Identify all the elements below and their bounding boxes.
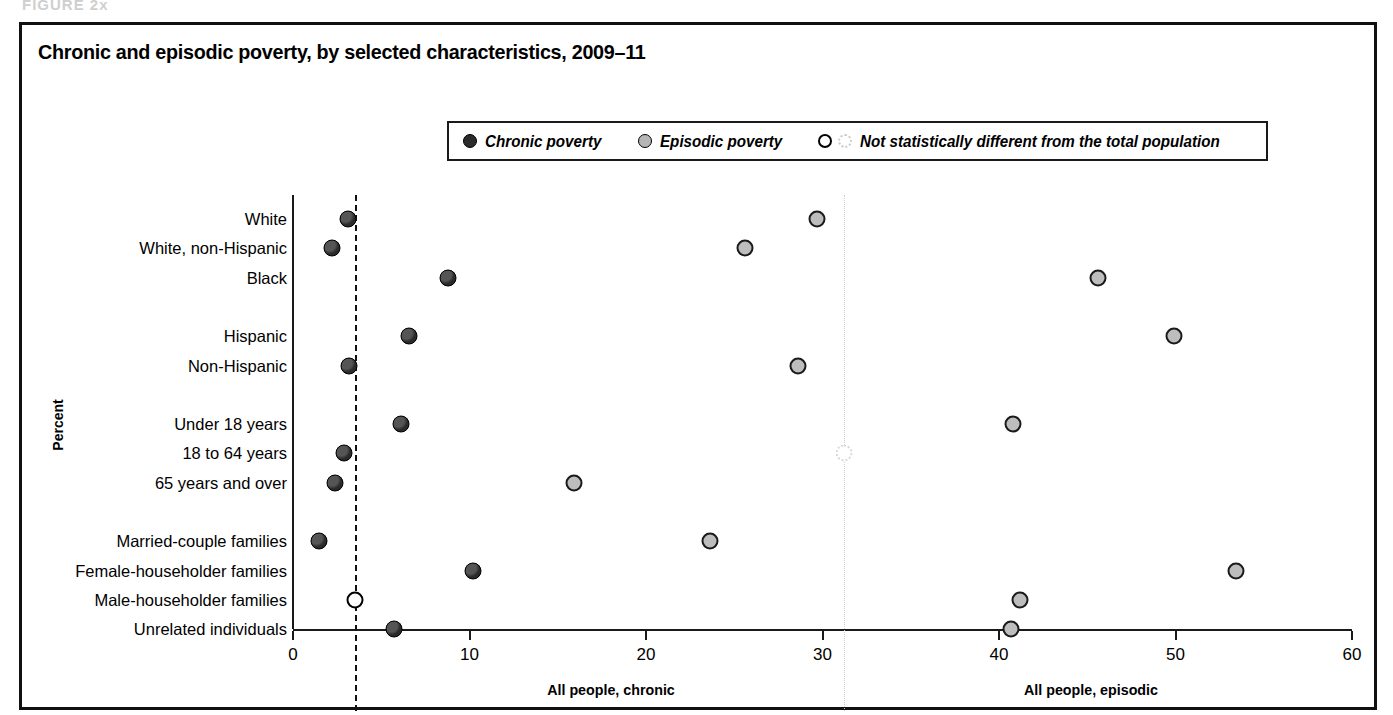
data-point-chronic [323, 240, 340, 257]
data-point-episodic [1165, 328, 1182, 345]
data-point-episodic [1005, 416, 1022, 433]
y-axis-line [292, 195, 294, 629]
data-point-chronic [341, 357, 358, 374]
chart-panel: Chronic and episodic poverty, by selecte… [19, 22, 1377, 710]
category-label: Under 18 years [174, 415, 287, 434]
category-label: 18 to 64 years [182, 444, 287, 463]
data-point-chronic [327, 474, 344, 491]
x-axis-tick [469, 631, 471, 640]
x-axis-tick [1175, 631, 1177, 640]
reference-line-label: All people, chronic [547, 681, 675, 699]
data-point-chronic [440, 269, 457, 286]
data-point-chronic [336, 445, 353, 462]
category-label: Female-householder families [75, 561, 287, 580]
data-point-episodic [789, 357, 806, 374]
data-point-episodic [736, 240, 753, 257]
x-axis-tick-label: 50 [1166, 645, 1185, 665]
data-point-episodic [835, 445, 852, 462]
x-axis-tick [292, 631, 294, 640]
category-label: Male-householder families [94, 590, 287, 609]
reference-line-chronic [355, 195, 357, 711]
x-axis-tick-label: 40 [990, 645, 1009, 665]
data-point-chronic [392, 416, 409, 433]
data-point-chronic [401, 328, 418, 345]
category-label: 65 years and over [155, 473, 287, 492]
category-label: White, non-Hispanic [139, 239, 287, 258]
category-label: Hispanic [224, 327, 287, 346]
y-axis-label: Percent [50, 399, 66, 450]
category-label: Black [247, 268, 287, 287]
data-point-episodic [565, 474, 582, 491]
x-axis-tick [1351, 631, 1353, 640]
data-point-episodic [1227, 562, 1244, 579]
reference-line-label: All people, episodic [1024, 681, 1158, 699]
x-axis-tick-label: 0 [288, 645, 297, 665]
category-label: Non-Hispanic [188, 356, 287, 375]
data-point-episodic [701, 533, 718, 550]
data-point-chronic [339, 211, 356, 228]
x-axis-tick-label: 30 [813, 645, 832, 665]
data-point-chronic [311, 533, 328, 550]
x-axis-tick [822, 631, 824, 640]
data-point-chronic [385, 621, 402, 638]
data-point-chronic [346, 591, 363, 608]
data-point-episodic [809, 211, 826, 228]
data-point-episodic [1012, 591, 1029, 608]
x-axis-tick-label: 60 [1343, 645, 1362, 665]
plot-area: Percent WhiteWhite, non-HispanicBlackHis… [22, 25, 1380, 713]
category-label: Married-couple families [116, 532, 287, 551]
x-axis-tick-label: 10 [460, 645, 479, 665]
category-label: Unrelated individuals [134, 620, 287, 639]
x-axis-tick [998, 631, 1000, 640]
category-label: White [245, 210, 287, 229]
data-point-episodic [1089, 269, 1106, 286]
data-point-chronic [465, 562, 482, 579]
figure-number-stub: FIGURE 2x [22, 0, 109, 13]
x-axis-tick [645, 631, 647, 640]
x-axis-tick-label: 20 [637, 645, 656, 665]
data-point-episodic [1003, 621, 1020, 638]
